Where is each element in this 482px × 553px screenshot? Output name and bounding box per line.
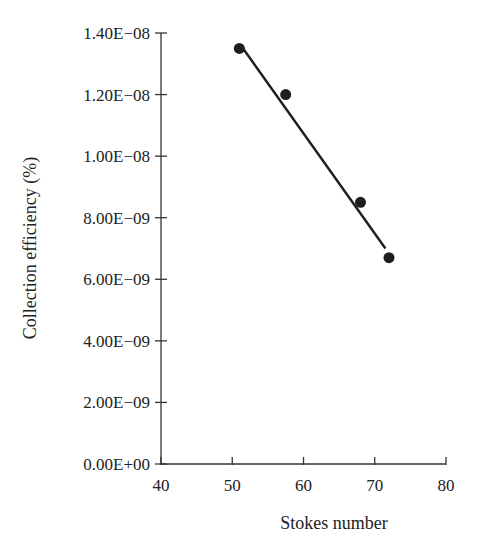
y-tick-label: 0.00E+00 bbox=[83, 455, 150, 474]
x-tick-label: 70 bbox=[366, 476, 383, 495]
data-point-marker bbox=[234, 43, 245, 54]
data-point-marker bbox=[355, 197, 366, 208]
y-axis-ticks: 0.00E+002.00E−094.00E−096.00E−098.00E−09… bbox=[83, 24, 167, 474]
data-point-marker bbox=[280, 89, 291, 100]
x-axis-label: Stokes number bbox=[280, 513, 388, 533]
trend-line bbox=[241, 45, 386, 248]
axes bbox=[161, 33, 446, 464]
trendline bbox=[241, 45, 386, 248]
x-tick-label: 60 bbox=[295, 476, 312, 495]
y-axis-label-group: Collection efficiency (%) bbox=[20, 157, 41, 340]
y-tick-label: 6.00E−09 bbox=[83, 270, 150, 289]
y-tick-label: 8.00E−09 bbox=[83, 209, 150, 228]
data-point-marker bbox=[384, 252, 395, 263]
x-tick-label: 50 bbox=[224, 476, 241, 495]
y-tick-label: 2.00E−09 bbox=[83, 393, 150, 412]
x-tick-label: 40 bbox=[153, 476, 170, 495]
data-points bbox=[234, 43, 395, 263]
scatter-chart: Collection efficiency (%) Stokes number … bbox=[0, 0, 482, 553]
y-axis-label: Collection efficiency (%) bbox=[20, 157, 41, 340]
y-tick-label: 1.00E−08 bbox=[83, 147, 150, 166]
y-tick-label: 1.40E−08 bbox=[83, 24, 150, 43]
y-tick-label: 4.00E−09 bbox=[83, 332, 150, 351]
y-tick-label: 1.20E−08 bbox=[83, 86, 150, 105]
x-axis-ticks: 4050607080 bbox=[153, 457, 455, 495]
x-tick-label: 80 bbox=[438, 476, 455, 495]
